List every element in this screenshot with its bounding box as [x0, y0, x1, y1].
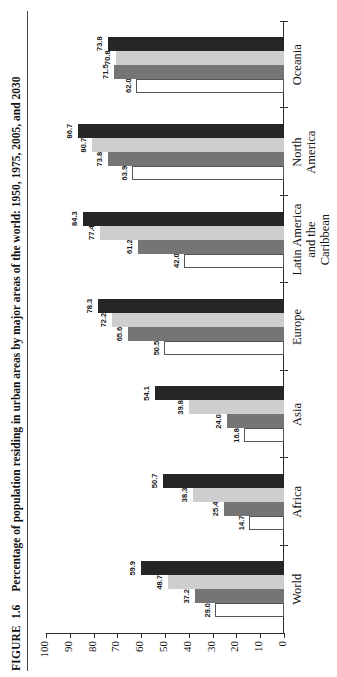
bar-slot: 71.5	[46, 65, 284, 79]
bar-slot: 42.0	[46, 254, 284, 268]
bar[interactable]: 71.5	[114, 65, 284, 79]
bar-group: 62.071.570.873.8Oceania	[46, 21, 284, 108]
y-axis-tick-label: 10	[252, 641, 264, 652]
group-category-label: Asia	[290, 371, 304, 458]
y-axis-tick-label: 70	[109, 641, 121, 652]
bar[interactable]: 54.1	[155, 386, 284, 400]
bar-value-label: 54.1	[142, 386, 151, 401]
bar[interactable]: 42.0	[184, 254, 284, 268]
bar-value-label: 48.7	[155, 575, 164, 590]
bar-slot: 29.0	[46, 603, 284, 617]
bar-value-label: 37.2	[182, 589, 191, 604]
y-axis-tick-mark	[260, 633, 261, 638]
bar[interactable]: 38.3	[193, 488, 284, 502]
bar-value-label: 86.7	[65, 124, 74, 139]
bar-group: 29.037.248.759.9World	[46, 546, 284, 633]
bars-row: 63.973.880.786.7	[46, 108, 284, 195]
bar-slot: 50.5	[46, 341, 284, 355]
bar[interactable]: 63.9	[132, 166, 284, 180]
group-category-label: Latin America and the Caribbean	[290, 196, 332, 283]
bar-value-label: 50.7	[150, 474, 159, 489]
bar-slot: 73.8	[46, 37, 284, 51]
bar-slot: 50.7	[46, 474, 284, 488]
y-axis-tick-label: 20	[228, 641, 240, 652]
y-axis-tick-mark	[46, 633, 47, 638]
bar-slot: 39.8	[46, 400, 284, 414]
bar[interactable]: 73.8	[108, 37, 284, 51]
bar-value-label: 84.3	[70, 211, 79, 226]
bar-slot: 63.9	[46, 166, 284, 180]
bars-row: 62.071.570.873.8	[46, 21, 284, 108]
bar[interactable]: 50.7	[163, 474, 284, 488]
bar[interactable]: 86.7	[78, 124, 284, 138]
y-axis-tick-label: 50	[157, 641, 169, 652]
bar-slot: 24.0	[46, 414, 284, 428]
group-category-label: Europe	[290, 283, 304, 370]
bar-slot: 73.8	[46, 152, 284, 166]
bar-slot: 78.3	[46, 299, 284, 313]
bar[interactable]: 84.3	[83, 212, 284, 226]
bar-slot: 16.8	[46, 428, 284, 442]
bar-value-label: 16.8	[232, 428, 241, 443]
rotated-figure-stage: FIGURE 1.6 Percentage of population resi…	[0, 0, 337, 677]
bar[interactable]: 65.6	[128, 327, 284, 341]
bar[interactable]: 48.7	[168, 575, 284, 589]
bar-group: 50.565.672.278.3Europe	[46, 283, 284, 370]
bar-value-label: 70.8	[103, 50, 112, 65]
bar-group: 16.824.039.854.1Asia	[46, 371, 284, 458]
caption-divider	[27, 11, 28, 671]
bar[interactable]: 29.0	[215, 603, 284, 617]
bar-value-label: 14.7	[237, 516, 246, 531]
bar[interactable]: 14.7	[249, 516, 284, 530]
bars-row: 29.037.248.759.9	[46, 546, 284, 633]
bar[interactable]: 62.0	[136, 79, 284, 93]
figure-label: FIGURE	[10, 625, 22, 671]
bar-slot: 48.7	[46, 575, 284, 589]
bar[interactable]: 25.4	[224, 502, 284, 516]
bar[interactable]: 24.0	[227, 414, 284, 428]
bar-slot: 54.1	[46, 386, 284, 400]
y-axis-tick-label: 40	[181, 641, 193, 652]
bar[interactable]: 77.4	[100, 226, 284, 240]
y-axis-tick-label: 80	[86, 641, 98, 652]
bar[interactable]: 37.2	[195, 589, 284, 603]
bar-value-label: 62.0	[124, 78, 133, 93]
bar-value-label: 65.6	[115, 327, 124, 342]
bar[interactable]: 78.3	[98, 299, 284, 313]
bars-row: 14.725.438.350.7	[46, 458, 284, 545]
bar-slot: 61.2	[46, 240, 284, 254]
bar[interactable]: 73.8	[108, 152, 284, 166]
bar-value-label: 72.2	[99, 313, 108, 328]
bar-value-label: 25.4	[211, 502, 220, 517]
bar[interactable]: 80.7	[92, 138, 284, 152]
bar[interactable]: 16.8	[244, 428, 284, 442]
bar-value-label: 42.0	[172, 253, 181, 268]
bar-slot: 25.4	[46, 502, 284, 516]
y-axis-tick-mark	[117, 633, 118, 638]
bar[interactable]: 70.8	[116, 51, 285, 65]
bar[interactable]: 50.5	[164, 341, 284, 355]
bar-value-label: 71.5	[101, 64, 110, 79]
figure-container: FIGURE 1.6 Percentage of population resi…	[0, 0, 337, 677]
bar-slot: 80.7	[46, 138, 284, 152]
bar[interactable]: 72.2	[112, 313, 284, 327]
y-axis-tick-mark	[165, 633, 166, 638]
bar-slot: 62.0	[46, 79, 284, 93]
group-category-label: World	[290, 546, 304, 633]
figure-caption: FIGURE 1.6 Percentage of population resi…	[6, 11, 28, 671]
bar[interactable]: 39.8	[189, 400, 284, 414]
bar-value-label: 59.9	[128, 561, 137, 576]
group-category-label: North America	[290, 108, 318, 195]
bar-slot: 72.2	[46, 313, 284, 327]
bar-value-label: 77.4	[87, 225, 96, 240]
bar-value-label: 73.8	[95, 36, 104, 51]
bar[interactable]: 61.2	[138, 240, 284, 254]
group-category-label: Africa	[290, 458, 304, 545]
y-axis-tick-label: 30	[205, 641, 217, 652]
bar-value-label: 50.5	[152, 341, 161, 356]
bar-group: 42.061.277.484.3Latin America and the Ca…	[46, 196, 284, 283]
bar-value-label: 78.3	[85, 299, 94, 314]
bar-value-label: 24.0	[214, 414, 223, 429]
bar[interactable]: 59.9	[141, 561, 284, 575]
bar-slot: 14.7	[46, 516, 284, 530]
